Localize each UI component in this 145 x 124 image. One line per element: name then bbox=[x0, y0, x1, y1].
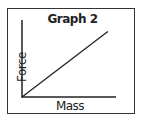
x-axis-label: Mass bbox=[22, 99, 118, 113]
data-line bbox=[22, 32, 108, 97]
y-axis-label: Force bbox=[15, 47, 29, 87]
